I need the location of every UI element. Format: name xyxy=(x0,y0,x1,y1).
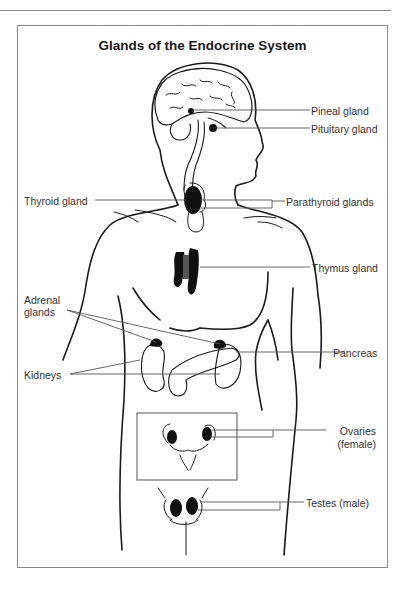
testis-left xyxy=(170,499,182,517)
label-pituitary-gland: Pituitary gland xyxy=(311,123,378,135)
adrenal-leader-b xyxy=(67,310,220,344)
label-thyroid-gland: Thyroid gland xyxy=(24,195,88,207)
torso-left-outline xyxy=(63,205,178,360)
ovaries-leader xyxy=(210,430,273,437)
label-ovaries-line1: Ovaries xyxy=(326,425,376,437)
label-adrenal-line2: glands xyxy=(24,306,55,318)
adrenal-left xyxy=(150,339,162,347)
label-parathyroid-glands: Parathyroid glands xyxy=(286,196,374,208)
testis-right xyxy=(186,497,198,515)
label-testes: Testes (male) xyxy=(306,497,369,509)
label-pancreas: Pancreas xyxy=(333,347,377,359)
kidney-left xyxy=(141,344,164,391)
adrenal-leader-a xyxy=(67,310,156,342)
ovary-left xyxy=(167,430,177,444)
label-pineal-gland: Pineal gland xyxy=(311,105,369,117)
label-kidneys: Kidneys xyxy=(24,369,61,381)
pancreas-shape xyxy=(169,348,239,396)
label-adrenal-line1: Adrenal xyxy=(24,294,60,306)
testes-leader xyxy=(198,502,280,510)
label-ovaries-line2: (female) xyxy=(326,438,376,450)
kidneys-leader-a xyxy=(70,360,140,374)
ovary-right xyxy=(202,427,212,441)
pineal-gland-marker xyxy=(188,108,194,114)
label-thymus-gland: Thymus gland xyxy=(312,262,378,274)
adrenal-right xyxy=(214,340,227,349)
brain-outline xyxy=(155,69,252,125)
torso-right-outline xyxy=(238,205,321,368)
head-outline xyxy=(152,63,263,205)
